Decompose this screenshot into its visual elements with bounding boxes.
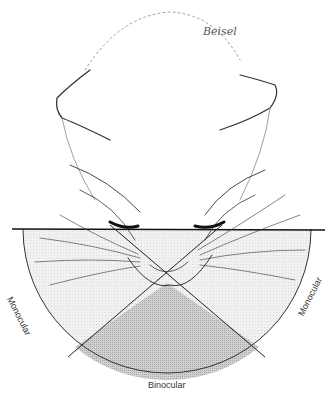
diagram-canvas — [0, 0, 335, 399]
horizontal-axis-line — [12, 229, 325, 230]
visual-field-diagram: Beisel Monocular Monocular Binocular — [0, 0, 335, 399]
binocular-label: Binocular — [148, 380, 186, 390]
artist-signature: Beisel — [203, 25, 237, 38]
